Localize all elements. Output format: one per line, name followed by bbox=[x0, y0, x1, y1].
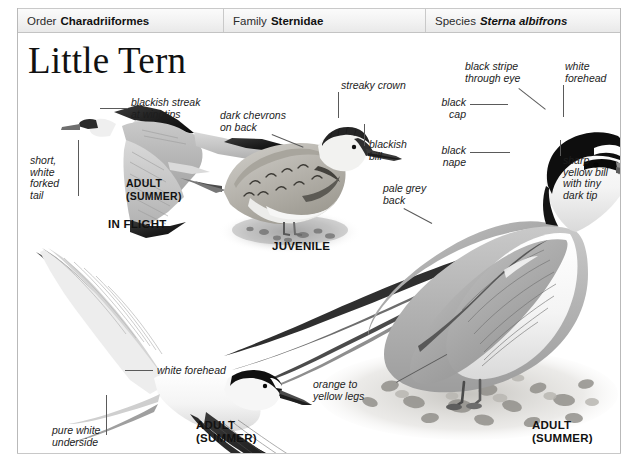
annotation-sharp-yellow-bill: sharp yellow bill with tiny dark tip bbox=[563, 155, 608, 201]
taxonomy-rank-order: Order bbox=[27, 15, 56, 27]
annotation-black-cap: black cap bbox=[418, 97, 466, 120]
taxonomy-header-bar: Order Charadriiformes Family Sternidae S… bbox=[18, 8, 620, 33]
annotation-black-nape: black nape bbox=[418, 145, 466, 168]
taxonomy-value-species: Sterna albifrons bbox=[480, 15, 568, 27]
page-frame-bottom bbox=[17, 453, 621, 454]
leader-line-blackish-bill bbox=[364, 124, 365, 146]
leader-line-sharp-yellow-bill bbox=[560, 140, 561, 156]
plate-label-in-flight: IN FLIGHT bbox=[108, 218, 166, 231]
leader-line-black-nape bbox=[470, 152, 510, 153]
annotation-white-forehead-bottom: white forehead bbox=[157, 365, 226, 377]
page-frame-right bbox=[620, 8, 621, 454]
annotation-pale-grey-back: pale grey back bbox=[383, 183, 426, 206]
leader-line-streaky-crown bbox=[338, 92, 339, 118]
annotation-black-stripe-through-eye: black stripe through eye bbox=[465, 61, 520, 84]
annotation-white-forehead-top: white forehead bbox=[565, 61, 606, 84]
leader-line-blackish-streak bbox=[100, 108, 128, 109]
taxonomy-value-family: Sternidae bbox=[271, 15, 323, 27]
plate-label-juvenile: JUVENILE bbox=[272, 240, 330, 253]
taxonomy-cell-order: Order Charadriiformes bbox=[18, 9, 223, 32]
annotation-short-white-forked-tail: short, white forked tail bbox=[30, 155, 59, 201]
annotation-streaky-crown: streaky crown bbox=[341, 80, 406, 92]
leader-line-black-cap bbox=[470, 104, 508, 105]
taxonomy-cell-species: Species Sterna albifrons bbox=[425, 9, 620, 32]
plate-label-adult-summer-standing: ADULT (SUMMER) bbox=[532, 419, 593, 444]
page-title: Little Tern bbox=[28, 42, 186, 81]
field-guide-page: Order Charadriiformes Family Sternidae S… bbox=[0, 0, 638, 462]
annotation-pure-white-underside: pure white underside bbox=[52, 425, 100, 448]
taxonomy-value-order: Charadriiformes bbox=[60, 15, 149, 27]
leader-line-white-forehead-bottom bbox=[125, 370, 153, 371]
annotation-dark-chevrons-on-back: dark chevrons on back bbox=[220, 110, 286, 133]
taxonomy-rank-family: Family bbox=[233, 15, 267, 27]
annotation-blackish-streak-at-wingtips: blackish streak at wingtips bbox=[131, 97, 200, 120]
plate-label-adult-summer-bottom: ADULT (SUMMER) bbox=[196, 419, 257, 444]
annotation-orange-to-yellow-legs: orange to yellow legs bbox=[313, 379, 364, 402]
annotation-blackish-bill: blackish bill bbox=[369, 139, 407, 162]
taxonomy-cell-family: Family Sternidae bbox=[223, 9, 425, 32]
taxonomy-rank-species: Species bbox=[435, 15, 476, 27]
leader-line-pure-white-underside bbox=[106, 395, 107, 435]
plate-label-adult-summer-inflight: ADULT (SUMMER) bbox=[126, 177, 182, 202]
leader-line-forked-tail bbox=[78, 140, 79, 196]
leader-line-white-forehead-top bbox=[563, 85, 564, 117]
tern-in-flight-lower-illustration bbox=[36, 248, 330, 453]
